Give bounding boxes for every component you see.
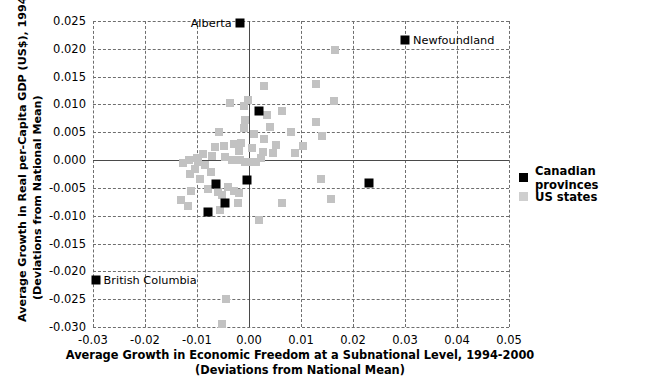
data-point-us-state	[184, 202, 192, 210]
data-point-us-state	[272, 141, 280, 149]
gridline-horizontal	[93, 299, 509, 300]
legend-label: US states	[535, 190, 597, 204]
data-point-us-state	[179, 159, 187, 167]
data-point-canadian-province	[91, 275, 100, 284]
data-point-us-state	[266, 123, 274, 131]
y-tick-label: -0.030	[49, 320, 86, 334]
plot-area: 0.0250.0200.0150.0100.0050.000-0.005-0.0…	[93, 21, 509, 327]
gridline-horizontal	[93, 77, 509, 78]
data-point-canadian-province	[220, 198, 229, 207]
gridline-horizontal	[93, 327, 509, 328]
data-point-us-state	[234, 199, 242, 207]
data-point-us-state	[215, 128, 223, 136]
data-point-us-state	[331, 46, 339, 54]
legend: Canadian provincesUS states	[519, 168, 651, 206]
x-tick-label: 0.02	[340, 333, 366, 347]
data-point-canadian-province	[401, 36, 410, 45]
x-tick-label: -0.01	[182, 333, 212, 347]
x-tick-label: 0.00	[236, 333, 262, 347]
gridline-horizontal	[93, 244, 509, 245]
data-point-us-state	[207, 168, 215, 176]
data-point-us-state	[218, 320, 226, 328]
data-point-us-state	[259, 148, 267, 156]
data-point-canadian-province	[235, 18, 244, 27]
x-axis-title-line-1: Average Growth in Economic Freedom at a …	[0, 348, 600, 363]
data-point-us-state	[330, 97, 338, 105]
y-tick-label: 0.010	[53, 97, 86, 111]
legend-label: Canadian provinces	[535, 164, 651, 192]
data-point-us-state	[299, 142, 307, 150]
gridline-horizontal	[93, 216, 509, 217]
x-tick-label: -0.02	[130, 333, 160, 347]
data-point-us-state	[211, 143, 219, 151]
legend-swatch-us-icon	[519, 192, 528, 201]
y-axis-title: Average Growth in Real per-Capita GDP (U…	[0, 0, 44, 340]
data-point-canadian-province	[255, 107, 264, 116]
data-point-us-state	[240, 124, 248, 132]
zero-axis-vertical	[249, 21, 250, 327]
x-axis-title: Average Growth in Economic Freedom at a …	[0, 348, 600, 378]
data-point-us-state	[318, 132, 326, 140]
data-point-us-state	[250, 130, 258, 138]
data-point-us-state	[269, 149, 277, 157]
data-point-us-state	[196, 175, 204, 183]
x-tick-label: 0.01	[288, 333, 314, 347]
x-tick-label: -0.03	[78, 333, 108, 347]
data-point-us-state	[255, 216, 263, 224]
data-point-us-state	[260, 135, 268, 143]
point-annotation-label: Newfoundland	[413, 34, 494, 47]
point-annotation-label: Alberta	[191, 16, 232, 29]
data-point-us-state	[260, 82, 268, 90]
legend-swatch-ca-icon	[519, 173, 528, 182]
gridline-vertical	[353, 21, 354, 327]
gridline-vertical	[405, 21, 406, 327]
y-tick-label: -0.005	[49, 181, 86, 195]
y-tick-label: -0.020	[49, 264, 86, 278]
gridline-vertical	[301, 21, 302, 327]
zero-axis-horizontal	[93, 160, 509, 161]
data-point-us-state	[248, 144, 256, 152]
data-point-us-state	[312, 80, 320, 88]
y-axis-title-line-2: (Deviations from National Mean)	[31, 96, 44, 301]
data-point-us-state	[226, 99, 234, 107]
data-point-us-state	[263, 111, 271, 119]
y-tick-label: 0.025	[53, 14, 86, 28]
gridline-horizontal	[93, 132, 509, 133]
gridline-horizontal	[93, 49, 509, 50]
data-point-us-state	[278, 107, 286, 115]
gridline-vertical	[197, 21, 198, 327]
data-point-us-state	[220, 142, 228, 150]
y-tick-label: -0.025	[49, 292, 86, 306]
y-tick-label: 0.005	[53, 125, 86, 139]
data-point-us-state	[186, 170, 194, 178]
data-point-us-state	[237, 139, 245, 147]
x-tick-label: 0.03	[392, 333, 418, 347]
data-point-us-state	[312, 118, 320, 126]
data-point-us-state	[187, 187, 195, 195]
data-point-us-state	[235, 147, 243, 155]
y-tick-label: -0.010	[49, 209, 86, 223]
gridline-horizontal	[93, 104, 509, 105]
legend-item-ca: Canadian provinces	[519, 168, 651, 187]
gridline-horizontal	[93, 271, 509, 272]
data-point-canadian-province	[212, 180, 221, 189]
data-point-us-state	[222, 295, 230, 303]
y-tick-label: 0.020	[53, 42, 86, 56]
data-point-us-state	[208, 152, 216, 160]
y-tick-label: 0.015	[53, 70, 86, 84]
x-axis-title-line-2: (Deviations from National Mean)	[0, 363, 600, 378]
data-point-us-state	[278, 199, 286, 207]
gridline-horizontal	[93, 188, 509, 189]
data-point-us-state	[327, 195, 335, 203]
gridline-horizontal	[93, 21, 509, 22]
data-point-canadian-province	[365, 179, 374, 188]
data-point-canadian-province	[242, 176, 251, 185]
gridline-vertical	[457, 21, 458, 327]
scatter-chart-figure: Average Growth in Real per-Capita GDP (U…	[0, 0, 656, 385]
data-point-us-state	[317, 175, 325, 183]
data-point-us-state	[291, 149, 299, 157]
data-point-us-state	[287, 128, 295, 136]
gridline-vertical	[509, 21, 510, 327]
y-tick-label: 0.000	[53, 153, 86, 167]
data-point-us-state	[218, 191, 226, 199]
